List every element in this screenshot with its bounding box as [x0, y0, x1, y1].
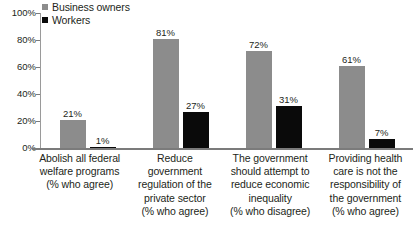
category-label: Providing healthcare is not theresponsib… — [318, 152, 413, 218]
category-label: Abolish all federalwelfare programs(% wh… — [32, 152, 127, 218]
bar-chart: Business owners Workers 100% 80% 60% 40%… — [0, 0, 413, 231]
y-tick-label-100: 100% — [2, 8, 36, 18]
bar-group: 81%27% — [134, 13, 227, 148]
category-label-line: welfare programs — [34, 165, 125, 178]
x-axis-category-labels: Abolish all federalwelfare programs(% wh… — [32, 152, 413, 218]
y-tick-label-80: 80% — [2, 35, 36, 45]
bar-workers[interactable] — [183, 112, 209, 148]
category-label-line: care is not the — [320, 165, 411, 178]
bar-workers[interactable] — [276, 106, 302, 148]
bar-value-label: 81% — [155, 28, 177, 38]
plot-area: 21%1%81%27%72%31%61%7% — [41, 13, 413, 148]
bar-value-label: 21% — [62, 109, 84, 119]
category-label-line: inequality — [225, 192, 316, 205]
bar-owners[interactable] — [60, 120, 86, 148]
y-axis: 100% 80% 60% 40% 20% 0% — [0, 0, 36, 160]
legend-item-business-owners: Business owners — [42, 1, 130, 13]
bar-value-label: 31% — [278, 95, 300, 105]
legend-swatch-gray-icon — [42, 4, 48, 10]
category-label-line: private sector — [129, 192, 220, 205]
bar-group: 72%31% — [227, 13, 320, 148]
bar-owners[interactable] — [246, 51, 272, 148]
category-label-line: Providing health — [320, 152, 411, 165]
category-label-line: the government — [320, 192, 411, 205]
bar-value-label: 61% — [341, 55, 363, 65]
bar-value-label: 7% — [371, 128, 393, 138]
category-label-line: regulation of the — [129, 178, 220, 191]
category-label-line: (% who agree) — [320, 205, 411, 218]
category-label-line: (% who disagree) — [225, 205, 316, 218]
y-tick-label-20: 20% — [2, 116, 36, 126]
category-label-line: The government — [225, 152, 316, 165]
category-label: Reduce governmentregulation of theprivat… — [127, 152, 222, 218]
category-label-line: (% who agree) — [34, 178, 125, 191]
bar-group: 21%1% — [41, 13, 134, 148]
y-tick-label-0: 0% — [2, 143, 36, 153]
bar-workers[interactable] — [369, 139, 395, 148]
bar-owners[interactable] — [339, 66, 365, 148]
bar-workers[interactable] — [90, 147, 116, 149]
legend-label-business-owners: Business owners — [52, 2, 130, 13]
bar-owners[interactable] — [153, 39, 179, 148]
category-label-line: reduce economic — [225, 178, 316, 191]
bar-group: 61%7% — [320, 13, 413, 148]
x-axis-line — [32, 148, 413, 150]
bar-value-label: 1% — [92, 136, 114, 146]
category-label-line: Abolish all federal — [34, 152, 125, 165]
bar-value-label: 27% — [185, 101, 207, 111]
y-tick-label-40: 40% — [2, 89, 36, 99]
category-label-line: should attempt to — [225, 165, 316, 178]
bar-value-label: 72% — [248, 40, 270, 50]
category-label-line: Reduce government — [129, 152, 220, 178]
category-label-line: responsibility of — [320, 178, 411, 191]
category-label-line: (% who agree) — [129, 205, 220, 218]
y-tick-label-60: 60% — [2, 62, 36, 72]
category-label: The governmentshould attempt toreduce ec… — [223, 152, 318, 218]
